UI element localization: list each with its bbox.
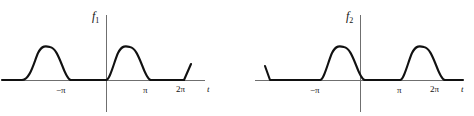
plot-f2-canvas xyxy=(237,0,474,116)
plot-f2-tick-pi: π xyxy=(397,86,402,95)
plot-f2-function-label: f2 xyxy=(346,10,353,25)
plot-f2-tick-neg-pi: −π xyxy=(310,86,320,95)
plot-f1-function-subscript: 1 xyxy=(95,16,99,25)
plot-f2: f2 −π π 2π t xyxy=(237,0,474,116)
plot-f2-falling-stub xyxy=(265,66,320,80)
plot-f1-tick-pi: π xyxy=(143,86,148,95)
plot-f1-rising-stub xyxy=(184,64,191,80)
plot-f1-tick-2pi: 2π xyxy=(176,85,185,94)
plot-f1: f1 −π π 2π t xyxy=(0,0,237,116)
plot-f2-tick-2pi: 2π xyxy=(430,85,439,94)
plot-f1-tick-neg-pi: −π xyxy=(56,86,66,95)
plot-f1-x-axis-label: t xyxy=(207,85,210,94)
plot-f2-function-subscript: 2 xyxy=(349,16,353,25)
plot-f2-hump-right xyxy=(400,46,463,80)
plot-f1-canvas xyxy=(0,0,237,116)
figure-two-rectified-sine-plots: f1 −π π 2π t f2 −π π 2π t xyxy=(0,0,474,116)
plot-f1-hump-left xyxy=(2,46,106,80)
plot-f1-function-label: f1 xyxy=(92,10,99,25)
plot-f1-hump-right xyxy=(106,46,184,80)
plot-f2-x-axis-label: t xyxy=(461,85,464,94)
